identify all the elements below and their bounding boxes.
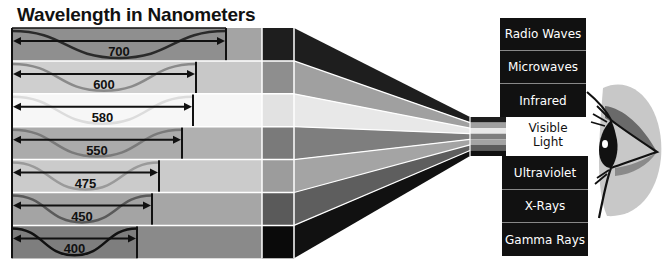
label-infrared: Infrared bbox=[500, 84, 586, 117]
wavelength-value: 475 bbox=[75, 176, 97, 191]
label-text: Infrared bbox=[519, 94, 566, 108]
label-visible-light: Visible Light bbox=[508, 121, 588, 149]
label-microwaves: Microwaves bbox=[500, 51, 586, 84]
wavelength-value: 400 bbox=[64, 241, 86, 256]
label-text: Radio Waves bbox=[505, 27, 582, 41]
label-ultraviolet: Ultraviolet bbox=[502, 156, 588, 190]
label-text: X-Rays bbox=[525, 199, 566, 213]
eye-icon bbox=[585, 78, 663, 220]
visible-line-2: Light bbox=[508, 135, 588, 149]
label-radio-waves: Radio Waves bbox=[500, 18, 586, 51]
wavelength-value: 600 bbox=[93, 77, 115, 92]
label-text: Gamma Rays bbox=[505, 233, 585, 247]
label-text: Microwaves bbox=[508, 60, 578, 74]
label-text: Ultraviolet bbox=[514, 166, 576, 180]
wavelength-value: 550 bbox=[86, 143, 108, 158]
label-gamma-rays: Gamma Rays bbox=[502, 223, 588, 256]
visible-line-1: Visible bbox=[508, 121, 588, 135]
wavelength-value: 450 bbox=[71, 209, 93, 224]
wavelength-value: 700 bbox=[108, 44, 130, 59]
label-x-rays: X-Rays bbox=[502, 190, 588, 223]
wavelength-value: 580 bbox=[92, 110, 114, 125]
